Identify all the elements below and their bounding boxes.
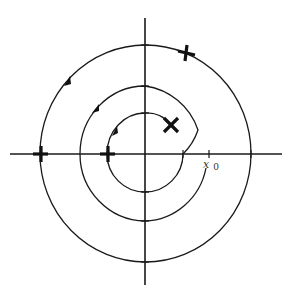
cross-marker-end — [164, 118, 178, 132]
diagram-canvas: x0 — [0, 0, 295, 293]
start-point-subscript: 0 — [213, 162, 219, 172]
start-point-label: x0 — [203, 158, 219, 172]
plus-marker-left-outer — [33, 146, 48, 162]
arrow-icon — [64, 76, 71, 86]
phase-portrait — [0, 0, 295, 293]
plus-marker-top-right — [178, 45, 195, 61]
start-point-symbol: x — [203, 158, 209, 171]
arrow-icon — [92, 104, 99, 113]
direction-arrows — [64, 76, 118, 136]
plus-marker-left-inner — [100, 146, 115, 162]
